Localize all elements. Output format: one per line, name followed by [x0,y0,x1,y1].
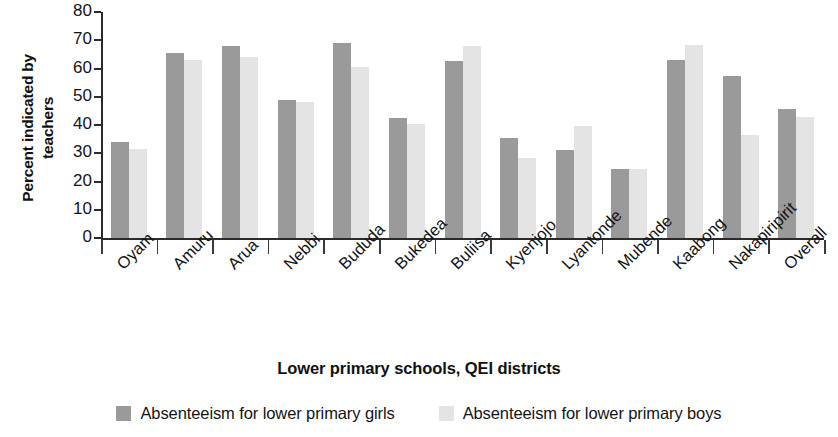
bar-girls [500,138,518,238]
y-axis-tick [94,96,101,98]
x-axis-label: Arua [224,235,262,273]
bar-girls [556,150,574,238]
x-axis-tick [101,240,103,254]
legend-item-girls: Absenteeism for lower primary girls [116,404,394,423]
bar-boys [574,126,592,238]
bar-boys [685,45,703,239]
bar-boys [407,124,425,238]
bar-girls [445,61,463,238]
bar-girls [166,53,184,238]
y-axis-tick-label: 70 [58,29,92,49]
y-axis-tick-label: 30 [58,142,92,162]
bar-boys [240,57,258,238]
y-axis-tick [94,39,101,41]
y-axis-tick [94,11,101,13]
plot-area [101,12,824,238]
y-axis-title: Percent indicated by teachers [18,18,58,238]
y-axis-tick-label: 20 [58,171,92,191]
bar-boys [741,135,759,238]
x-axis-tick [268,240,270,254]
bar-girls [278,100,296,238]
y-axis-tick-label: 40 [58,114,92,134]
legend-swatch-girls-icon [116,406,131,421]
y-axis-tick-label: 10 [58,199,92,219]
bar-boys [518,158,536,239]
chart-legend: Absenteeism for lower primary girls Abse… [0,404,838,423]
bar-boys [129,149,147,238]
y-axis-tick-label: 0 [58,227,92,247]
bar-boys [463,46,481,238]
bar-girls [723,76,741,238]
bar-chart: Percent indicated by teachers 8070605040… [0,0,838,437]
bar-girls [111,142,129,238]
y-axis-tick-label: 60 [58,58,92,78]
y-axis-title-line2: teachers [38,18,58,238]
legend-label-boys: Absenteeism for lower primary boys [463,404,722,423]
bar-boys [184,60,202,238]
bar-girls [222,46,240,238]
y-axis-title-line1: Percent indicated by [19,54,36,202]
bar-boys [796,117,814,238]
legend-item-boys: Absenteeism for lower primary boys [439,404,722,423]
bar-girls [667,60,685,238]
y-axis-tick [94,68,101,70]
legend-label-girls: Absenteeism for lower primary girls [140,404,394,423]
bar-girls [333,43,351,238]
y-axis-tick [94,209,101,211]
y-axis-tick-label: 80 [58,1,92,21]
y-axis-tick [94,237,101,239]
bar-boys [351,67,369,238]
y-axis-tick [94,124,101,126]
bar-girls [389,118,407,238]
y-axis-tick [94,152,101,154]
y-axis-line [101,12,103,239]
bar-boys [296,102,314,238]
y-axis-tick-label: 50 [58,86,92,106]
y-axis-tick [94,181,101,183]
legend-swatch-boys-icon [439,406,454,421]
x-axis-title: Lower primary schools, QEI districts [0,359,838,378]
